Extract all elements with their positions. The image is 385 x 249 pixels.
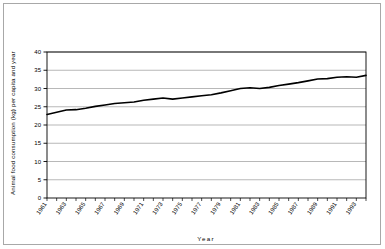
y-axis-title: Animal food consumption (kg) per capita … — [9, 51, 16, 195]
y-axis-tick-label: 0 — [38, 195, 42, 201]
x-axis-tick-label: 1981 — [229, 201, 242, 216]
x-axis-title: Year — [197, 235, 214, 242]
x-axis-tick-label: 1983 — [248, 201, 261, 216]
x-axis-tick-label: 1985 — [267, 201, 280, 216]
x-axis-tick-label: 1987 — [287, 201, 300, 216]
y-axis-tick-label: 20 — [34, 122, 41, 128]
x-axis-tick-label: 1975 — [171, 201, 184, 216]
x-axis-tick-label: 1969 — [113, 201, 126, 216]
x-axis-tick-label: 1973 — [151, 201, 164, 216]
x-axis-tick-label: 1979 — [209, 201, 222, 216]
x-axis-tick-label: 1961 — [35, 201, 48, 216]
line-chart: 0510152025303540 19611963196519671969197… — [0, 0, 385, 249]
y-axis-tick-label: 40 — [34, 49, 41, 55]
x-axis-tick-label: 1977 — [190, 201, 203, 216]
y-axis-tick-label: 15 — [34, 140, 41, 146]
y-axis-tick-label: 25 — [34, 104, 41, 110]
y-axis-tick-label: 10 — [34, 159, 41, 165]
x-axis-tick-label: 1965 — [74, 201, 87, 216]
y-axis-tick-label: 30 — [34, 86, 41, 92]
x-axis-tick-label: 1963 — [55, 201, 68, 216]
chart-figure: 0510152025303540 19611963196519671969197… — [0, 0, 385, 249]
x-axis-tick-label: 1989 — [306, 201, 319, 216]
y-axis-tick-label: 5 — [38, 177, 42, 183]
x-axis-tick-label: 1971 — [132, 201, 145, 216]
y-axis-ticks-group: 0510152025303540 — [34, 49, 47, 201]
x-axis-tick-label: 1967 — [93, 201, 106, 216]
x-axis-labels-group: 1961196319651967196919711973197519771979… — [35, 201, 357, 216]
y-axis-tick-label: 35 — [34, 67, 41, 73]
x-axis-tick-label: 1993 — [345, 201, 358, 216]
x-axis-tick-label: 1991 — [325, 201, 338, 216]
